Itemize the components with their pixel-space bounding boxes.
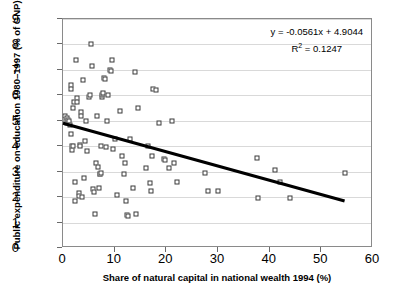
regression-equation: y = -0.0561x + 4.9044: [271, 25, 363, 39]
r-squared-value: = 0.1247: [305, 43, 342, 54]
x-axis-title: Share of natural capital in national wea…: [62, 272, 372, 283]
plot-area: y = -0.0561x + 4.9044 R2 = 0.1247: [62, 18, 372, 247]
x-tick-label: 0: [42, 251, 82, 266]
y-tick-mark: [57, 43, 62, 44]
x-tick-label: 40: [249, 251, 289, 266]
y-tick-label: 5: [0, 113, 19, 126]
regression-annotation: y = -0.0561x + 4.9044 R2 = 0.1247: [271, 25, 363, 56]
y-tick-label: 7: [0, 62, 19, 75]
x-tick-mark: [114, 247, 115, 252]
r-squared-exponent: 2: [298, 42, 302, 49]
y-tick-mark: [57, 18, 62, 19]
scatter-chart: Public expenditure on education 1980–199…: [0, 0, 393, 302]
r-squared-text: R2 = 0.1247: [271, 39, 363, 56]
y-tick-mark: [57, 145, 62, 146]
y-tick-mark: [57, 171, 62, 172]
y-tick-label: 1: [0, 215, 19, 228]
y-tick-label: 3: [0, 164, 19, 177]
x-tick-label: 20: [145, 251, 185, 266]
x-tick-label: 30: [197, 251, 237, 266]
y-tick-mark: [57, 196, 62, 197]
x-tick-mark: [165, 247, 166, 252]
x-tick-label: 50: [300, 251, 340, 266]
y-tick-label: 0: [0, 241, 19, 254]
y-tick-mark: [57, 69, 62, 70]
x-tick-mark: [320, 247, 321, 252]
x-tick-mark: [217, 247, 218, 252]
y-tick-mark: [57, 222, 62, 223]
y-tick-mark: [57, 247, 62, 248]
y-tick-label: 8: [0, 37, 19, 50]
x-tick-label: 10: [94, 251, 134, 266]
y-tick-label: 2: [0, 190, 19, 203]
y-tick-label: 4: [0, 139, 19, 152]
y-tick-label: 9: [0, 12, 19, 25]
x-tick-mark: [269, 247, 270, 252]
x-tick-label: 60: [352, 251, 392, 266]
y-tick-mark: [57, 94, 62, 95]
y-tick-label: 6: [0, 88, 19, 101]
y-tick-mark: [57, 120, 62, 121]
